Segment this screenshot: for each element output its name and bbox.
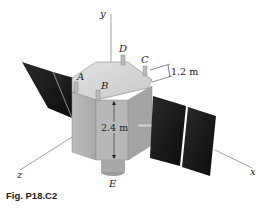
dim-extension-top: [150, 64, 170, 70]
satellite-side-face-right: [128, 86, 152, 160]
offset-dimension-line: [168, 65, 170, 77]
y-axis-label: y: [99, 8, 106, 19]
left-solar-panel: [22, 62, 74, 118]
point-d-label: D: [118, 43, 127, 54]
point-c-label: C: [141, 54, 149, 65]
point-b-label: B: [100, 80, 108, 91]
thruster-d: [121, 55, 125, 65]
figure-caption: Fig. P18.C2: [6, 190, 57, 201]
nozzle-body: [101, 160, 125, 172]
z-axis-label: z: [16, 169, 23, 180]
thruster-a: [74, 82, 78, 92]
x-axis: [215, 150, 252, 168]
dim-extension-bottom: [152, 76, 172, 82]
satellite-side-face-left: [72, 92, 96, 160]
satellite-diagram: 2.4 m 1.2 m y z x A B C D E: [0, 0, 263, 209]
offset-dimension-label: 1.2 m: [171, 66, 198, 77]
z-axis: [20, 132, 80, 170]
thruster-c: [143, 66, 147, 76]
height-dimension-label: 2.4 m: [101, 122, 128, 133]
thruster-b: [96, 90, 100, 100]
right-solar-panels: [150, 96, 216, 176]
point-a-label: A: [76, 71, 84, 82]
x-axis-label: x: [250, 166, 256, 177]
point-e-label: E: [108, 178, 117, 189]
